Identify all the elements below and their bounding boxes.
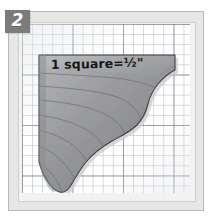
step-diagram-figure: 1 square=½" 2 <box>0 0 214 223</box>
bracket-pattern-shape <box>22 24 190 193</box>
step-number-label: 2 <box>12 12 24 29</box>
scale-unit: " <box>137 55 144 70</box>
scale-prefix: 1 square= <box>51 56 124 72</box>
scale-annotation: 1 square=½" <box>51 55 144 72</box>
scale-fraction: ½ <box>124 55 137 70</box>
step-number-badge: 2 <box>5 10 30 33</box>
